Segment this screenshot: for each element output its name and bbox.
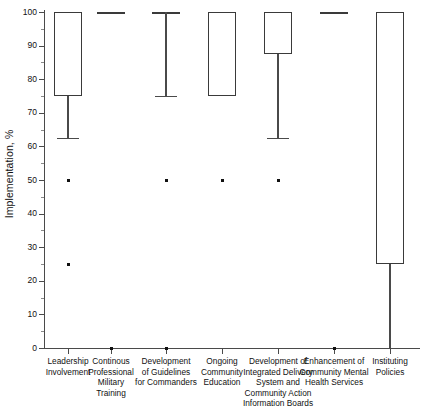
x-tick-1 — [111, 349, 112, 354]
x-tick-2 — [166, 349, 167, 354]
y-tick-label-70: 70 — [16, 108, 37, 117]
outlier-2-1 — [165, 347, 168, 350]
category-label-line: Community Action — [238, 388, 318, 399]
whisker-low-4 — [277, 54, 278, 138]
box-0 — [54, 12, 82, 96]
category-label-line: Training — [80, 388, 142, 399]
y-axis-line — [44, 10, 45, 349]
y-tick-minor — [41, 264, 44, 265]
category-label-line: Policies — [364, 367, 416, 378]
y-tick-50 — [39, 180, 44, 181]
whisker-cap-low-2 — [155, 96, 177, 97]
whisker-low-2 — [165, 12, 166, 96]
y-tick-minor — [41, 130, 44, 131]
category-label-line: Instituting — [364, 356, 416, 367]
y-tick-minor — [41, 298, 44, 299]
y-tick-label-100: 100 — [16, 8, 37, 17]
y-tick-label-60: 60 — [16, 142, 37, 151]
y-tick-minor — [41, 29, 44, 30]
y-tick-minor — [41, 331, 44, 332]
box-collapsed-1 — [97, 12, 125, 14]
y-tick-minor — [41, 96, 44, 97]
category-label-line: Community Mental — [295, 367, 373, 378]
y-tick-minor — [41, 163, 44, 164]
category-label-5: Enhancement ofCommunity MentalHealth Ser… — [295, 356, 373, 388]
y-tick-label-80: 80 — [16, 75, 37, 84]
whisker-cap-low-6 — [379, 348, 401, 349]
x-tick-3 — [222, 349, 223, 354]
y-tick-70 — [39, 113, 44, 114]
y-tick-90 — [39, 46, 44, 47]
y-tick-10 — [39, 314, 44, 315]
outlier-1-0 — [110, 347, 113, 350]
y-tick-label-20: 20 — [16, 276, 37, 285]
y-tick-label-90: 90 — [16, 41, 37, 50]
y-axis-label-text: Implementation, % — [3, 130, 15, 219]
category-label-line: Information Boards — [238, 398, 318, 409]
x-tick-4 — [278, 349, 279, 354]
y-tick-minor — [41, 197, 44, 198]
whisker-low-0 — [67, 96, 68, 138]
outlier-0-1 — [67, 263, 70, 266]
box-4 — [264, 12, 292, 54]
outlier-5-0 — [333, 347, 336, 350]
box-3 — [208, 12, 236, 96]
x-tick-6 — [390, 349, 391, 354]
y-tick-30 — [39, 247, 44, 248]
outlier-2-0 — [165, 179, 168, 182]
y-tick-label-30: 30 — [16, 243, 37, 252]
y-tick-60 — [39, 146, 44, 147]
outlier-3-0 — [221, 179, 224, 182]
y-tick-minor — [41, 62, 44, 63]
x-tick-0 — [68, 349, 69, 354]
y-tick-20 — [39, 281, 44, 282]
category-label-line: Enhancement of — [295, 356, 373, 367]
outlier-0-0 — [67, 179, 70, 182]
y-axis-label: Implementation, % — [0, 0, 18, 348]
whisker-low-6 — [389, 264, 390, 348]
category-label-line: Health Services — [295, 377, 373, 388]
y-tick-label-40: 40 — [16, 209, 37, 218]
outlier-4-0 — [277, 179, 280, 182]
y-tick-40 — [39, 214, 44, 215]
y-tick-label-50: 50 — [16, 176, 37, 185]
y-tick-minor — [41, 230, 44, 231]
y-tick-0 — [39, 348, 44, 349]
whisker-cap-low-0 — [57, 138, 79, 139]
y-tick-label-10: 10 — [16, 310, 37, 319]
x-tick-5 — [334, 349, 335, 354]
x-axis-category-labels: LeadershipInvolvementContinousProfession… — [0, 356, 432, 416]
whisker-cap-low-4 — [267, 138, 289, 139]
box-6 — [376, 12, 404, 264]
boxplot-figure: Implementation, % 0102030405060708090100… — [0, 0, 432, 417]
y-tick-label-0: 0 — [16, 344, 37, 353]
category-label-6: InstitutingPolicies — [364, 356, 416, 377]
box-collapsed-5 — [320, 12, 348, 14]
y-tick-100 — [39, 12, 44, 13]
y-tick-80 — [39, 79, 44, 80]
x-axis-line — [44, 348, 420, 349]
